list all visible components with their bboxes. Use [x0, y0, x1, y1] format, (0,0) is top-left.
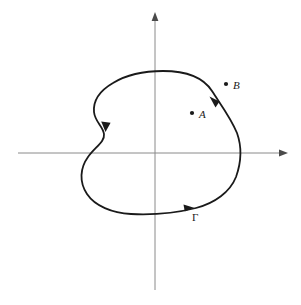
point-A-dot [190, 111, 194, 115]
point-B-dot [224, 82, 228, 86]
contour-diagram-figure: A B Γ [0, 0, 301, 305]
contour-gamma-label: Γ [192, 212, 198, 223]
axes-group [18, 12, 288, 290]
contour-curve-gamma [81, 71, 240, 214]
diagram-canvas [0, 0, 301, 305]
imaginary-axis-arrowhead [152, 12, 159, 21]
real-axis-arrowhead [279, 150, 288, 157]
arrow-upper-right-icon [210, 97, 220, 108]
contour-curve-group [81, 71, 240, 214]
point-A-label: A [199, 109, 206, 120]
point-B-label: B [233, 80, 240, 91]
